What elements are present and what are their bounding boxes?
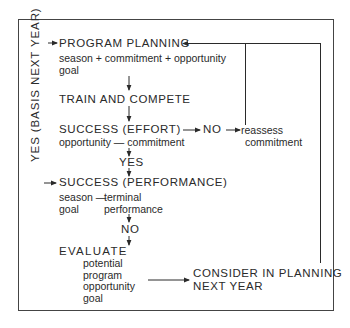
program-planning-formula: season + commitment + opportunity	[59, 53, 226, 64]
evaluate-item-goal: goal	[83, 293, 103, 304]
evaluate-item-opportunity: opportunity	[83, 281, 135, 292]
program-planning-goal: goal	[59, 65, 79, 76]
evaluate-item-potential: potential	[83, 258, 123, 269]
performance-performance-label: performance	[104, 204, 163, 215]
consider-line1: CONSIDER IN PLANNING	[193, 268, 342, 280]
no-performance-label: NO	[121, 224, 139, 236]
reassess-commitment-label: commitment	[245, 137, 302, 148]
consider-line2: NEXT YEAR	[193, 281, 263, 293]
performance-season-label: season —	[59, 192, 106, 203]
train-compete-title: TRAIN AND COMPETE	[59, 94, 191, 106]
success-performance-title: SUCCESS (PERFORMANCE)	[59, 177, 228, 189]
reassess-label: reassess	[241, 125, 283, 136]
performance-terminal-label: terminal	[104, 192, 141, 203]
success-effort-title: SUCCESS (EFFORT)	[59, 124, 181, 136]
yes-basis-next-year-label: YES (BASIS NEXT YEAR)	[29, 7, 41, 162]
performance-goal-label: goal	[59, 204, 79, 215]
yes-effort-label: YES	[119, 157, 144, 169]
program-planning-title: PROGRAM PLANNING	[59, 38, 190, 50]
evaluate-title: EVALUATE	[59, 246, 128, 258]
evaluate-item-program: program	[83, 270, 122, 281]
success-effort-formula: opportunity — commitment	[59, 137, 184, 148]
no-effort-label: NO	[203, 124, 221, 136]
